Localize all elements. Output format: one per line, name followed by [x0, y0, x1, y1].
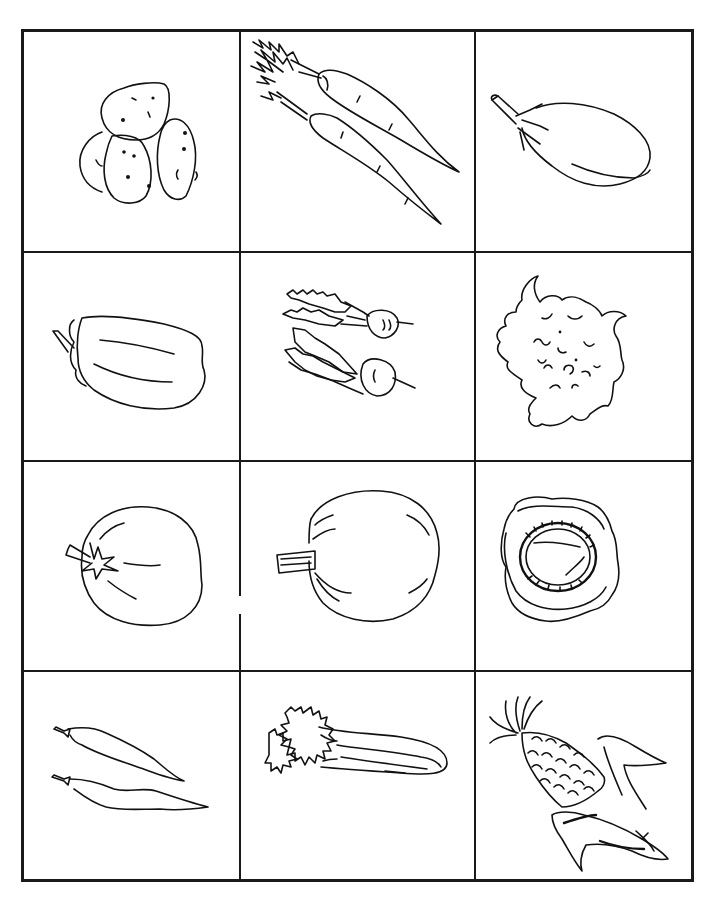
eggplant-icon: [476, 32, 691, 251]
row-divider-3: [22, 670, 693, 672]
cell-tomato: tomato: [24, 463, 239, 670]
carrots-icon: [241, 32, 474, 251]
cell-bell-pepper: bell pepper: [24, 254, 239, 460]
cauliflower-icon: [476, 254, 691, 460]
cell-celery: celery: [241, 673, 474, 880]
cell-pumpkin: pumpkin: [241, 463, 474, 670]
celery-icon: [241, 673, 474, 880]
cell-radishes: radishes: [241, 254, 474, 460]
row-divider-1: [22, 251, 693, 253]
green-beans-icon: [24, 673, 239, 880]
pumpkin-icon: [241, 463, 474, 670]
cell-carrots: carrots: [241, 32, 474, 251]
cell-cauliflower: cauliflower: [476, 254, 691, 460]
cell-potatoes: potatoes: [24, 32, 239, 251]
potatoes-icon: [24, 32, 239, 251]
corn-icon: [476, 673, 691, 880]
bell-pepper-icon: [24, 254, 239, 460]
cell-green-beans: green beans: [24, 673, 239, 880]
tomato-icon: [24, 463, 239, 670]
radishes-icon: [241, 254, 474, 460]
row-divider-2: [22, 460, 693, 462]
cell-cabbage: cabbage: [476, 463, 691, 670]
cell-eggplant: eggplant: [476, 32, 691, 251]
worksheet: potatoes carrots eggplant: [0, 0, 716, 906]
cabbage-icon: [476, 463, 691, 670]
cell-corn: corn: [476, 673, 691, 880]
